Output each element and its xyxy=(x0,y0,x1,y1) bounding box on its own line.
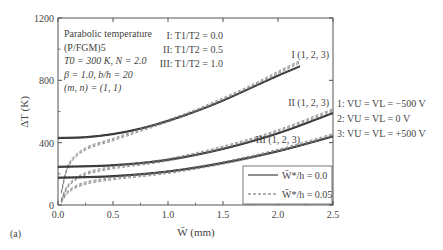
x-tick-label: 1.0 xyxy=(162,209,175,220)
x-tick-label: 2.5 xyxy=(327,209,340,220)
chart: 0.00.51.01.52.02.504008001200 ΔT (K) W̄ … xyxy=(0,0,443,250)
svg-text:II: T1/T2 = 0.5: II: T1/T2 = 0.5 xyxy=(163,44,223,55)
x-tick-label: 0.5 xyxy=(107,209,120,220)
y-tick-label: 800 xyxy=(39,75,54,86)
svg-text:I (1, 2, 3): I (1, 2, 3) xyxy=(292,49,330,61)
legend-dashed-label: W̄*/h = 0.05 xyxy=(282,189,332,200)
voltage-annotation: 1: VU = VL = −500 V 2: VU = VL = 0 V 3: … xyxy=(337,98,427,139)
svg-text:I: T1/T2 = 0.0: I: T1/T2 = 0.0 xyxy=(166,30,223,41)
curve-labels: I (1, 2, 3) II (1, 2, 3) III (1, 2, 3) xyxy=(256,49,329,146)
svg-text:(m, n) = (1, 1): (m, n) = (1, 1) xyxy=(64,82,122,94)
svg-text:1: VU = VL = −500 V: 1: VU = VL = −500 V xyxy=(337,98,427,109)
svg-text:3: VU = VL = +500 V: 3: VU = VL = +500 V xyxy=(337,128,427,139)
y-tick-label: 400 xyxy=(39,138,54,149)
panel-label: (a) xyxy=(10,228,21,240)
y-tick-label: 1200 xyxy=(34,13,54,24)
svg-text:Parabolic temperature: Parabolic temperature xyxy=(64,28,153,39)
y-axis-label: ΔT (K) xyxy=(18,96,31,128)
x-tick-label: 1.5 xyxy=(217,209,230,220)
x-axis-label: W̄ (mm) xyxy=(177,226,215,239)
cases-annotation: I: T1/T2 = 0.0 II: T1/T2 = 0.5 III: T1/T… xyxy=(160,30,223,69)
svg-text:T0 = 300 K, N = 2.0: T0 = 300 K, N = 2.0 xyxy=(64,55,146,66)
legend-solid-label: W̄*/h = 0.0 xyxy=(282,170,327,181)
svg-text:III (1, 2, 3): III (1, 2, 3) xyxy=(256,134,300,146)
svg-text:II (1, 2, 3): II (1, 2, 3) xyxy=(288,97,329,109)
params-annotation: Parabolic temperature (P/FGM)5 T0 = 300 … xyxy=(63,28,153,94)
svg-text:2: VU = VL = 0 V: 2: VU = VL = 0 V xyxy=(337,113,411,124)
x-tick-label: 2.0 xyxy=(272,209,285,220)
svg-text:β = 1.0, b/h = 20: β = 1.0, b/h = 20 xyxy=(63,69,133,80)
y-tick-label: 0 xyxy=(49,200,54,211)
legend: W̄*/h = 0.0 W̄*/h = 0.05 xyxy=(243,166,332,204)
svg-text:III: T1/T2 = 1.0: III: T1/T2 = 1.0 xyxy=(160,58,223,69)
svg-text:(P/FGM)5: (P/FGM)5 xyxy=(64,42,106,54)
